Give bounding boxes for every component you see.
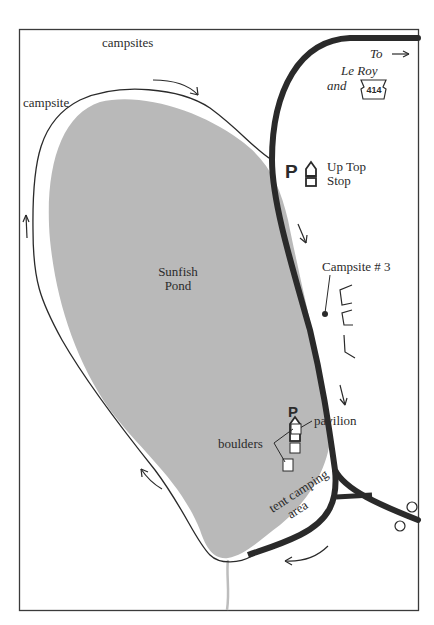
parking-icon: P [285, 162, 298, 182]
label-and: and [327, 79, 347, 93]
parking-icon: P [288, 404, 298, 420]
label-campsites: campsites [102, 36, 153, 50]
campsite-marker [344, 335, 355, 358]
pond-name-line2: Pond [148, 279, 208, 293]
direction-arrow-icon [141, 469, 162, 489]
direction-arrow-icon [285, 546, 328, 565]
label-campsite3: Campsite # 3 [322, 260, 391, 274]
label-campsite: campsite [23, 96, 69, 110]
restroom-icon [306, 162, 316, 186]
label-destination: Le Roy [341, 64, 377, 78]
label-up-top-stop: Up Top Stop [327, 160, 366, 188]
direction-arrow-icon [340, 385, 347, 405]
to-arrow-icon [392, 51, 409, 57]
road-end-marker [395, 521, 405, 531]
campsite-marker [342, 310, 353, 325]
up-top-line2: Stop [327, 174, 366, 188]
label-pavilion: pavilion [314, 414, 357, 428]
direction-arrow-icon [153, 80, 198, 95]
road-end-marker [407, 502, 417, 512]
stream [227, 560, 228, 610]
label-to: To [370, 47, 383, 61]
up-top-line1: Up Top [327, 160, 366, 174]
campsite3-pointer [325, 275, 330, 313]
label-boulders: boulders [218, 437, 263, 451]
direction-arrow-icon [23, 215, 29, 238]
label-pond: Sunfish Pond [148, 265, 208, 293]
boulder [290, 443, 300, 453]
pond-name-line1: Sunfish [148, 265, 208, 279]
connector-road [336, 495, 372, 497]
direction-arrow-icon [298, 224, 307, 243]
campsite-marker [340, 285, 352, 305]
campsite3-dot [322, 311, 328, 317]
route-number: 414 [364, 83, 384, 97]
